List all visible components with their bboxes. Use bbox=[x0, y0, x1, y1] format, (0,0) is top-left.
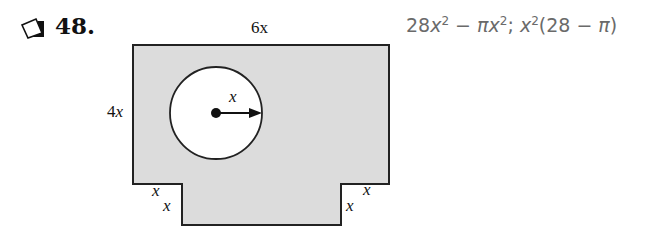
label-radius-text: x bbox=[229, 87, 237, 106]
label-left-height: 4x bbox=[107, 102, 123, 122]
label-left-height-coef: 4 bbox=[107, 102, 116, 121]
label-notch-right-v-text: x bbox=[346, 196, 354, 215]
label-notch-right-horizontal: x bbox=[363, 180, 371, 200]
label-radius: x bbox=[229, 87, 237, 107]
label-notch-left-h-text: x bbox=[152, 181, 160, 200]
label-top-width: 6x bbox=[251, 18, 268, 38]
label-notch-right-h-text: x bbox=[363, 180, 371, 199]
label-top-width-text: 6x bbox=[251, 18, 268, 37]
label-notch-left-horizontal: x bbox=[152, 181, 160, 201]
label-notch-right-vertical: x bbox=[346, 196, 354, 216]
label-notch-left-vertical: x bbox=[163, 196, 171, 216]
label-notch-left-v-text: x bbox=[163, 196, 171, 215]
label-left-height-var: x bbox=[116, 102, 124, 121]
geometry-figure bbox=[0, 0, 658, 227]
